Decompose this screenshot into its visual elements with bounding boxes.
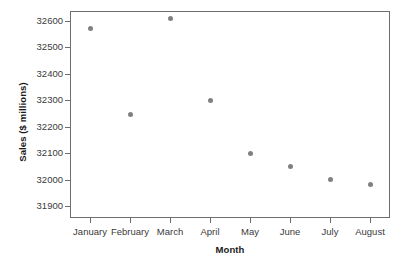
y-tick-label: 32000 <box>3 175 63 185</box>
x-tick-mark <box>90 218 91 223</box>
y-tick-label: 32400 <box>3 69 63 79</box>
y-tick-mark <box>65 21 70 22</box>
y-tick-label: 32600 <box>3 16 63 26</box>
y-tick-label: 32100 <box>3 148 63 158</box>
x-tick-mark <box>170 218 171 223</box>
data-point <box>288 164 293 169</box>
y-tick-mark <box>65 206 70 207</box>
x-tick-mark <box>210 218 211 223</box>
y-tick-mark <box>65 47 70 48</box>
x-tick-mark <box>130 218 131 223</box>
x-tick-mark <box>370 218 371 223</box>
y-tick-label: 31900 <box>3 201 63 211</box>
plot-area <box>70 11 390 218</box>
data-point <box>208 98 213 103</box>
y-tick-mark <box>65 74 70 75</box>
x-tick-mark <box>290 218 291 223</box>
data-point <box>168 16 173 21</box>
data-point <box>88 26 93 31</box>
scatter-plot-figure: Sales ($ millions) 319003200032100322003… <box>0 0 414 268</box>
data-point <box>368 182 373 187</box>
y-tick-mark <box>65 127 70 128</box>
data-point <box>248 151 253 156</box>
y-tick-label: 32500 <box>3 42 63 52</box>
x-tick-mark <box>330 218 331 223</box>
y-tick-label: 32200 <box>3 122 63 132</box>
y-tick-mark <box>65 153 70 154</box>
y-tick-mark <box>65 180 70 181</box>
data-point <box>128 112 133 117</box>
x-tick-mark <box>250 218 251 223</box>
y-tick-label: 32300 <box>3 95 63 105</box>
y-tick-mark <box>65 100 70 101</box>
data-point <box>328 177 333 182</box>
x-tick-label: August <box>335 226 405 238</box>
x-axis-title: Month <box>70 244 390 255</box>
